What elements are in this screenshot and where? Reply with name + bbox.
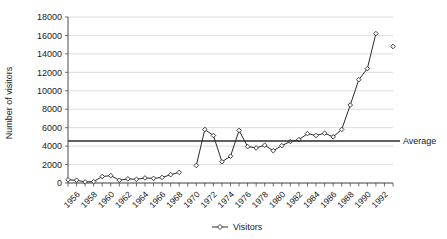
legend-label-visitors: Visitors [233,222,263,232]
y-axis-title: Number of visitors [4,66,14,139]
y-tick-label: 16000 [37,31,62,41]
y-tick-label: 8000 [42,104,62,114]
y-tick-label: 0 [57,178,62,188]
y-tick-label: 6000 [42,123,62,133]
y-axis-title-group: Number of visitors [4,66,14,139]
y-tick-label: 2000 [42,160,62,170]
y-tick-label: 14000 [37,49,62,59]
average-label: Average [403,136,436,146]
y-tick-label: 10000 [37,86,62,96]
chart-container: 0200040006000800010000120001400016000180… [0,0,447,239]
y-tick-label: 18000 [37,12,62,22]
y-tick-label: 12000 [37,68,62,78]
visitors-line-chart: 0200040006000800010000120001400016000180… [0,0,447,239]
y-tick-label: 4000 [42,141,62,151]
